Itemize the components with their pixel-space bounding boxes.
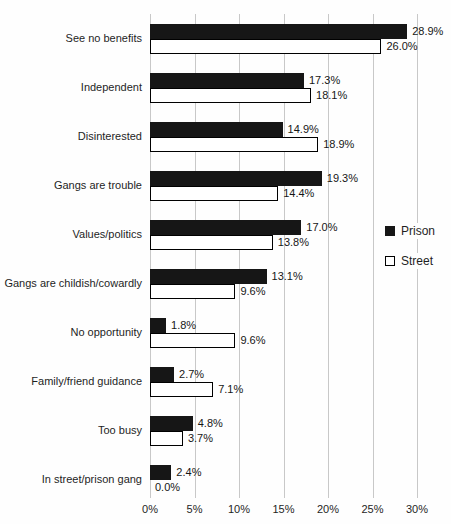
bars-stack: 4.8%3.7% bbox=[150, 416, 223, 446]
bar-group: Disinterested14.9%18.9% bbox=[0, 112, 451, 161]
prison-bar bbox=[150, 73, 304, 88]
prison-bar bbox=[150, 122, 283, 137]
prison-value-label: 2.4% bbox=[176, 466, 201, 478]
prison-value-label: 19.3% bbox=[327, 172, 358, 184]
category-label: Gangs are childish/cowardly bbox=[0, 277, 142, 290]
bars-stack: 19.3%14.4% bbox=[150, 171, 358, 201]
bar-line: 2.4% bbox=[150, 465, 201, 480]
prison-value-label: 14.9% bbox=[288, 123, 319, 135]
x-axis-tick-label: 0% bbox=[142, 503, 158, 515]
bars-stack: 2.7%7.1% bbox=[150, 367, 243, 397]
category-label: In street/prison gang bbox=[0, 473, 142, 486]
x-axis-tick-label: 10% bbox=[228, 503, 250, 515]
bar-line: 13.8% bbox=[150, 235, 338, 250]
street-value-label: 0.0% bbox=[155, 481, 180, 493]
legend: PrisonStreet bbox=[383, 223, 437, 269]
prison-bar bbox=[150, 416, 193, 431]
prison-bar bbox=[150, 318, 166, 333]
category-label: See no benefits bbox=[0, 32, 142, 45]
legend-item-prison: Prison bbox=[383, 223, 437, 239]
bar-group: Family/friend guidance2.7%7.1% bbox=[0, 357, 451, 406]
category-label: Gangs are trouble bbox=[0, 179, 142, 192]
bar-line: 26.0% bbox=[150, 39, 443, 54]
street-value-label: 9.6% bbox=[240, 334, 265, 346]
prison-bar bbox=[150, 367, 174, 382]
street-swatch-icon bbox=[385, 256, 395, 266]
prison-bar bbox=[150, 465, 171, 480]
category-label: Family/friend guidance bbox=[0, 375, 142, 388]
street-bar bbox=[150, 284, 235, 299]
legend-label: Street bbox=[401, 254, 433, 268]
bar-line: 18.1% bbox=[150, 88, 347, 103]
bar-line: 0.0% bbox=[150, 480, 201, 495]
prison-bar bbox=[150, 269, 267, 284]
bars-stack: 2.4%0.0% bbox=[150, 465, 201, 495]
street-bar bbox=[150, 186, 278, 201]
bars-stack: 1.8%9.6% bbox=[150, 318, 266, 348]
street-value-label: 14.4% bbox=[283, 187, 314, 199]
x-axis-tick-label: 20% bbox=[317, 503, 339, 515]
category-label: No opportunity bbox=[0, 326, 142, 339]
bar-line: 17.0% bbox=[150, 220, 338, 235]
bar-group: Independent17.3%18.1% bbox=[0, 63, 451, 112]
prison-value-label: 17.0% bbox=[306, 221, 337, 233]
bar-line: 14.9% bbox=[150, 122, 354, 137]
bar-line: 1.8% bbox=[150, 318, 266, 333]
category-label: Independent bbox=[0, 81, 142, 94]
bars-stack: 13.1%9.6% bbox=[150, 269, 303, 299]
prison-bar bbox=[150, 220, 301, 235]
bar-line: 14.4% bbox=[150, 186, 358, 201]
street-bar bbox=[150, 333, 235, 348]
prison-value-label: 1.8% bbox=[171, 319, 196, 331]
prison-value-label: 2.7% bbox=[179, 368, 204, 380]
bar-line: 13.1% bbox=[150, 269, 303, 284]
category-label: Disinterested bbox=[0, 130, 142, 143]
x-axis-tick-label: 5% bbox=[187, 503, 203, 515]
street-value-label: 7.1% bbox=[218, 383, 243, 395]
bar-group: In street/prison gang2.4%0.0% bbox=[0, 455, 451, 504]
street-value-label: 3.7% bbox=[188, 432, 213, 444]
bars-stack: 14.9%18.9% bbox=[150, 122, 354, 152]
category-label: Values/politics bbox=[0, 228, 142, 241]
prison-value-label: 17.3% bbox=[309, 74, 340, 86]
prison-bar bbox=[150, 171, 322, 186]
bars-stack: 17.0%13.8% bbox=[150, 220, 338, 250]
street-bar bbox=[150, 382, 213, 397]
street-value-label: 13.8% bbox=[278, 236, 309, 248]
street-value-label: 26.0% bbox=[386, 40, 417, 52]
bar-line: 19.3% bbox=[150, 171, 358, 186]
bar-line: 9.6% bbox=[150, 333, 266, 348]
street-bar bbox=[150, 235, 273, 250]
street-bar bbox=[150, 39, 381, 54]
prison-value-label: 4.8% bbox=[198, 417, 223, 429]
prison-bar bbox=[150, 24, 407, 39]
bar-line: 2.7% bbox=[150, 367, 243, 382]
x-axis-tick-label: 25% bbox=[361, 503, 383, 515]
bar-group: Gangs are trouble19.3%14.4% bbox=[0, 161, 451, 210]
bars-stack: 17.3%18.1% bbox=[150, 73, 347, 103]
legend-item-street: Street bbox=[383, 253, 437, 269]
bar-group: Too busy4.8%3.7% bbox=[0, 406, 451, 455]
prison-value-label: 28.9% bbox=[412, 25, 443, 37]
bar-group: See no benefits28.9%26.0% bbox=[0, 14, 451, 63]
street-bar bbox=[150, 88, 311, 103]
bar-line: 4.8% bbox=[150, 416, 223, 431]
bar-line: 17.3% bbox=[150, 73, 347, 88]
bar-line: 18.9% bbox=[150, 137, 354, 152]
bar-line: 28.9% bbox=[150, 24, 443, 39]
street-bar bbox=[150, 431, 183, 446]
x-axis-tick-label: 15% bbox=[272, 503, 294, 515]
bars-stack: 28.9%26.0% bbox=[150, 24, 443, 54]
street-bar bbox=[150, 137, 318, 152]
legend-label: Prison bbox=[401, 224, 435, 238]
prison-swatch-icon bbox=[385, 226, 395, 236]
street-value-label: 9.6% bbox=[240, 285, 265, 297]
category-label: Too busy bbox=[0, 424, 142, 437]
street-value-label: 18.1% bbox=[316, 89, 347, 101]
x-axis-tick-label: 30% bbox=[406, 503, 428, 515]
bar-chart-figure: See no benefits28.9%26.0%Independent17.3… bbox=[0, 0, 451, 524]
street-value-label: 18.9% bbox=[323, 138, 354, 150]
bar-line: 3.7% bbox=[150, 431, 223, 446]
bar-line: 7.1% bbox=[150, 382, 243, 397]
bar-group: No opportunity1.8%9.6% bbox=[0, 308, 451, 357]
